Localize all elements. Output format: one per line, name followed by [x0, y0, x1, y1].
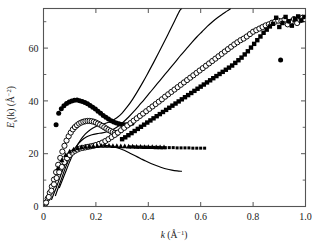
- data-point: [164, 146, 167, 149]
- data-point: [54, 122, 59, 127]
- data-point: [136, 146, 139, 149]
- x-axis-title: k (Å−1): [161, 229, 188, 242]
- data-point: [140, 146, 143, 149]
- data-point: [57, 170, 62, 175]
- data-point: [287, 19, 291, 23]
- data-point: [277, 25, 281, 29]
- data-point: [156, 146, 159, 149]
- y-tick-label: 20: [29, 148, 39, 159]
- x-tick-label: 0.6: [194, 211, 207, 222]
- x-tick-label: 0.4: [142, 211, 155, 222]
- data-point: [54, 175, 59, 180]
- data-point: [283, 15, 287, 19]
- data-point: [46, 194, 51, 199]
- x-tick-label: 0.2: [90, 211, 103, 222]
- y-tick-label: 40: [29, 96, 39, 107]
- x-tick-label: 0.8: [247, 211, 260, 222]
- data-point: [274, 16, 278, 20]
- data-point: [271, 22, 275, 26]
- x-tick-label: 1.0: [299, 211, 312, 222]
- y-tick-label: 60: [29, 43, 39, 54]
- data-point: [278, 57, 283, 62]
- scatter-plot: 00.20.40.60.81.0 0204060 k (Å−1) Es(k) (…: [0, 0, 320, 247]
- figure-container: 00.20.40.60.81.0 0204060 k (Å−1) Es(k) (…: [0, 0, 320, 247]
- data-point: [290, 23, 294, 27]
- data-point: [51, 182, 56, 187]
- data-point: [148, 146, 151, 149]
- data-point: [60, 149, 65, 154]
- data-point: [160, 146, 163, 149]
- data-point: [56, 111, 61, 116]
- data-point: [199, 147, 202, 150]
- data-point: [44, 200, 49, 205]
- data-point: [168, 146, 171, 149]
- data-point: [62, 143, 67, 148]
- data-point: [191, 147, 194, 150]
- data-point: [195, 147, 198, 150]
- x-tick-label: 0: [41, 211, 46, 222]
- y-tick-label: 0: [34, 201, 39, 212]
- data-point: [176, 146, 179, 149]
- data-point: [128, 145, 131, 148]
- data-point: [187, 146, 190, 149]
- figure-background: [0, 0, 320, 247]
- data-point: [280, 21, 284, 25]
- series-outlier-filled-circle: [278, 57, 283, 62]
- data-point: [132, 145, 135, 148]
- data-point: [183, 146, 186, 149]
- data-point: [203, 147, 206, 150]
- data-point: [144, 146, 147, 149]
- data-point: [152, 146, 155, 149]
- data-point: [172, 146, 175, 149]
- data-point: [296, 14, 300, 18]
- data-point: [180, 146, 183, 149]
- data-point: [49, 188, 54, 193]
